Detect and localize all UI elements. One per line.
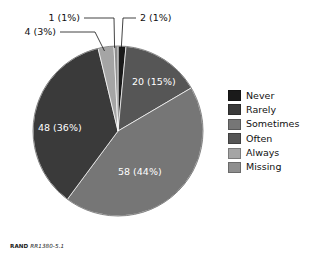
slice-label-sometimes: 58 (44%) (118, 166, 162, 177)
slice-label-often: 20 (15%) (132, 76, 176, 87)
legend-swatch-icon (228, 104, 241, 115)
legend-swatch-icon (228, 133, 241, 144)
legend-item-label: Sometimes (246, 119, 299, 129)
legend-item-always[interactable]: Always (228, 148, 299, 159)
legend-item-rarely[interactable]: Rarely (228, 104, 299, 115)
slice-label-rarely: 48 (36%) (38, 122, 82, 133)
legend-item-label: Always (246, 148, 279, 158)
legend-item-sometimes[interactable]: Sometimes (228, 119, 299, 130)
callout-label-always: 4 (3%) (24, 26, 56, 37)
callout-label-missing: 1 (1%) (48, 12, 80, 23)
figure-source-caption: RAND RR1380-5.1 (10, 243, 64, 249)
source-report-number: RR1380-5.1 (30, 243, 64, 249)
leader-line-missing (84, 18, 115, 48)
legend-item-often[interactable]: Often (228, 133, 299, 144)
legend-item-label: Often (246, 134, 272, 144)
legend-item-missing[interactable]: Missing (228, 162, 299, 173)
callout-label-never: 2 (1%) (140, 12, 172, 23)
legend-swatch-icon (228, 148, 241, 159)
source-organization: RAND (10, 243, 28, 249)
pie-chart-figure: 1 (1%) 2 (1%) 4 (3%) 20 (15%) 48 (36%) 5… (0, 0, 314, 270)
legend-item-never[interactable]: Never (228, 90, 299, 101)
leader-line-never (121, 18, 136, 48)
legend-item-label: Rarely (246, 105, 276, 115)
legend-swatch-icon (228, 90, 241, 101)
chart-legend: Never Rarely Sometimes Often Always Miss… (228, 90, 299, 173)
legend-item-label: Never (246, 91, 274, 101)
legend-swatch-icon (228, 162, 241, 173)
legend-item-label: Missing (246, 162, 281, 172)
legend-swatch-icon (228, 119, 241, 130)
